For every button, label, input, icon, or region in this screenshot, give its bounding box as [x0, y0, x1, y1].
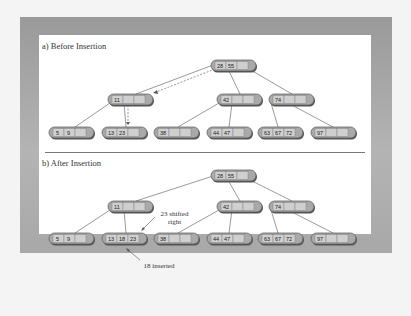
svg-text:28: 28	[217, 173, 223, 179]
svg-text:63: 63	[264, 236, 270, 242]
svg-text:42: 42	[223, 97, 229, 103]
svg-text:38: 38	[160, 236, 166, 242]
svg-text:97: 97	[317, 130, 323, 136]
svg-text:23: 23	[130, 236, 136, 242]
svg-text:9: 9	[67, 130, 70, 136]
svg-text:72: 72	[286, 130, 292, 136]
annotation-shifted: 23 shifted right	[152, 210, 197, 226]
svg-text:74: 74	[275, 204, 281, 210]
svg-text:13: 13	[108, 130, 114, 136]
svg-text:63: 63	[264, 130, 270, 136]
svg-text:67: 67	[275, 236, 281, 242]
svg-text:42: 42	[223, 204, 229, 210]
svg-text:11: 11	[114, 97, 120, 103]
panel-a-nodes	[49, 60, 357, 140]
panel-b-nodes	[49, 170, 357, 246]
panel-b-edges	[75, 176, 333, 260]
svg-text:47: 47	[224, 236, 230, 242]
svg-text:13: 13	[108, 236, 114, 242]
annotation-shifted-line1: 23 shifted	[152, 210, 197, 218]
svg-text:28: 28	[217, 63, 223, 69]
svg-text:38: 38	[160, 130, 166, 136]
svg-text:72: 72	[286, 236, 292, 242]
svg-text:11: 11	[114, 204, 120, 210]
svg-text:74: 74	[275, 97, 281, 103]
svg-text:9: 9	[67, 236, 70, 242]
svg-text:5: 5	[56, 236, 59, 242]
svg-text:23: 23	[119, 130, 125, 136]
svg-text:55: 55	[228, 173, 234, 179]
svg-text:97: 97	[317, 236, 323, 242]
svg-text:44: 44	[213, 130, 219, 136]
svg-text:47: 47	[224, 130, 230, 136]
annotation-inserted: 18 inserted	[134, 262, 184, 270]
svg-text:67: 67	[275, 130, 281, 136]
tree-diagram: 28 55 11 42 74 5 9 13 23 38 44 47 63 67 …	[0, 0, 411, 316]
svg-text:55: 55	[228, 63, 234, 69]
annotation-shifted-line2: right	[152, 218, 197, 226]
svg-text:44: 44	[213, 236, 219, 242]
svg-text:18: 18	[119, 236, 125, 242]
svg-text:5: 5	[56, 130, 59, 136]
